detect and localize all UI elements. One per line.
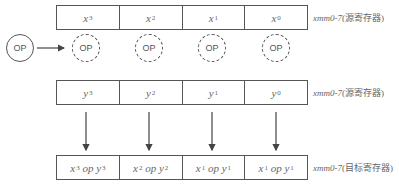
register-cell-y1: y1	[183, 81, 246, 104]
source-register-x-label: xmm0-7(源寄存器)	[313, 11, 384, 24]
operator-label: OP	[13, 43, 26, 53]
result-cell-2: x2 op y2	[120, 156, 183, 179]
destination-register: x3 op y3 x2 op y2 x1 op y1 x1 op y1	[56, 155, 308, 180]
register-cell-y3: y3	[57, 81, 120, 104]
source-register-y-label: xmm0-7(源寄存器)	[313, 86, 384, 99]
destination-register-label: xmm0-7(目标寄存器)	[313, 161, 393, 174]
register-cell-x2: x2	[120, 6, 183, 29]
register-cell-y2: y2	[120, 81, 183, 104]
register-cell-x0: x0	[245, 6, 307, 29]
source-register-x: x3 x2 x1 x0	[56, 5, 308, 30]
register-cell-x3: x3	[57, 6, 120, 29]
register-cell-x1: x1	[183, 6, 246, 29]
lane-op-1: OP	[198, 34, 226, 62]
lane-op-2: OP	[135, 34, 163, 62]
result-cell-1: x1 op y1	[183, 156, 246, 179]
lane-op-0: OP	[262, 34, 290, 62]
lane-op-3: OP	[72, 34, 100, 62]
register-cell-y0: y0	[245, 81, 307, 104]
operator-circle: OP	[6, 34, 34, 62]
source-register-y: y3 y2 y1 y0	[56, 80, 308, 105]
result-cell-3: x3 op y3	[57, 156, 120, 179]
result-cell-0: x1 op y1	[245, 156, 307, 179]
